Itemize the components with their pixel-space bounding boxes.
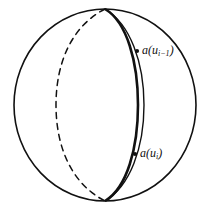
label-lower-head: a(u — [140, 146, 156, 160]
label-upper-head: a(u — [142, 43, 158, 57]
label-upper-tail: ) — [169, 43, 174, 57]
label-upper-subscript: i−1 — [158, 49, 170, 58]
figure-container: a(ui−1) a(ui) — [0, 0, 212, 214]
sphere-outline — [14, 9, 196, 201]
hidden-meridian-arc — [56, 9, 105, 201]
thick-meridian-arc — [105, 9, 138, 201]
sphere-diagram: a(ui−1) a(ui) — [0, 0, 212, 214]
point-marker-lower — [133, 152, 137, 156]
label-a-u-i: a(ui) — [140, 146, 162, 161]
label-a-u-i-minus-1: a(ui−1) — [142, 43, 174, 58]
point-marker-upper — [135, 49, 139, 53]
label-lower-tail: ) — [157, 146, 162, 160]
